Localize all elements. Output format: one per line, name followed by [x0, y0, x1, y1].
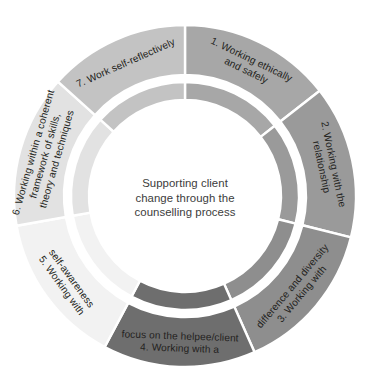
counselling-process-wheel-diagram: 1. Working ethicallyand safely2. Working…: [0, 0, 371, 389]
center-caption-line-2: change through the: [135, 191, 234, 206]
center-caption: Supporting client change through the cou…: [92, 168, 278, 228]
center-caption-line-3: counselling process: [135, 205, 236, 220]
center-caption-line-1: Supporting client: [142, 176, 228, 191]
ring-segment-inner-4[interactable]: [131, 281, 231, 310]
